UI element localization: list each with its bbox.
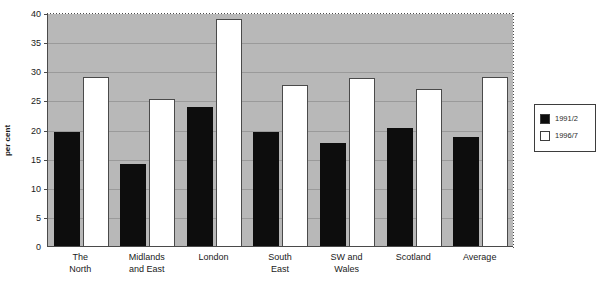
y-axis-tick-label: 25	[31, 97, 41, 106]
chart-legend: 1991/21996/7	[534, 104, 596, 152]
plot-area	[47, 14, 513, 247]
x-axis-tick-labels: The NorthMidlands and EastLondonSouth Ea…	[47, 252, 513, 286]
bar-group	[181, 14, 248, 246]
legend-label: 1996/7	[555, 131, 578, 140]
bar-group	[248, 14, 315, 246]
bar	[253, 132, 279, 246]
y-axis-tick-label: 0	[36, 243, 41, 252]
legend-item[interactable]: 1996/7	[540, 127, 591, 144]
bar	[54, 132, 80, 246]
bar-group	[115, 14, 182, 246]
chart-figure: per cent 0510152025303540 The NorthMidla…	[0, 0, 600, 288]
bar	[149, 99, 175, 246]
bar	[282, 85, 308, 246]
bar	[120, 164, 146, 246]
y-axis-tick-label: 5	[36, 213, 41, 222]
bar	[482, 77, 508, 246]
legend-label: 1991/2	[555, 114, 578, 123]
bar	[83, 77, 109, 246]
legend-item[interactable]: 1991/2	[540, 110, 591, 127]
bar	[320, 143, 346, 246]
bar-group	[447, 14, 514, 246]
x-axis-tick-label: Scotland	[396, 252, 431, 264]
y-axis-title-text: per cent	[4, 124, 13, 155]
x-axis-tick-label: Midlands and East	[129, 252, 165, 275]
bar-group	[48, 14, 115, 246]
y-axis-tick-labels: 0510152025303540	[18, 0, 44, 288]
x-axis-tick-label: South East	[268, 252, 292, 275]
legend-swatch	[540, 114, 550, 124]
bar	[216, 19, 242, 246]
y-axis-tick-label: 35	[31, 39, 41, 48]
bar	[187, 107, 213, 246]
y-axis-tick-label: 40	[31, 10, 41, 19]
bar	[349, 78, 375, 246]
bar-group	[381, 14, 448, 246]
bar	[416, 89, 442, 246]
y-axis-tick-label: 30	[31, 68, 41, 77]
y-axis-tick-label: 15	[31, 155, 41, 164]
y-axis-title: per cent	[0, 105, 16, 175]
x-axis-tick-label: London	[198, 252, 228, 264]
x-axis-tick-label: The North	[69, 252, 91, 275]
y-axis-tick-label: 20	[31, 126, 41, 135]
plot-right-border	[513, 13, 514, 248]
bar-group	[314, 14, 381, 246]
y-axis-tick-label: 10	[31, 184, 41, 193]
bar	[453, 137, 479, 247]
legend-swatch	[540, 131, 550, 141]
x-axis-tick-label: SW and Wales	[331, 252, 363, 275]
x-axis-tick-label: Average	[463, 252, 496, 264]
plot-top-border	[47, 13, 514, 14]
bar	[387, 128, 413, 246]
